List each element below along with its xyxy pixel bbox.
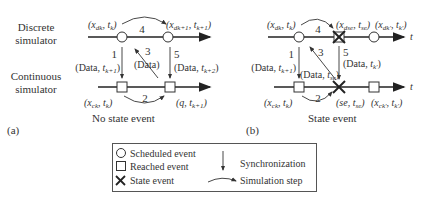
step-1-number: 1 — [112, 48, 118, 60]
step-1-label: (Data, tk+1) — [75, 62, 120, 75]
reached-event-icon — [117, 162, 126, 171]
step-4-number: 4 — [315, 23, 321, 35]
state-event-top-icon — [333, 31, 345, 43]
scheduled-event-icon — [117, 149, 126, 158]
step-3-label: (Data) — [134, 59, 160, 71]
scheduled-event-icon — [369, 32, 379, 42]
legend-sync-label: Synchronization — [240, 158, 306, 169]
legend-scheduled-label: Scheduled event — [130, 148, 196, 159]
state-label-xck: (xck, tk) — [264, 97, 293, 110]
cosimulation-diagram: Discrete simulator Continuous simulator … — [0, 0, 431, 203]
panel-b-caption: State event — [308, 112, 357, 124]
step-3-number: 3 — [145, 45, 151, 57]
state-label-xdse: (xdse, tse) — [336, 19, 371, 32]
legend: Scheduled event Reached event State even… — [113, 144, 317, 192]
step-5-label: (Data, tk') — [343, 58, 381, 71]
state-label-xdk: (xdk, tk) — [88, 19, 117, 32]
step-1-number: 1 — [289, 48, 295, 60]
panel-a-tag: (a) — [7, 124, 20, 137]
step-5-number: 5 — [174, 48, 180, 60]
continuous-label-line2: simulator — [15, 83, 57, 95]
state-label-xdk-prime: (xdk', tk') — [375, 19, 407, 32]
reached-event-icon — [294, 82, 304, 92]
step-3-number: 3 — [318, 46, 324, 58]
reached-event-icon — [369, 82, 379, 92]
state-label-xdk: (xdk, tk) — [267, 19, 296, 32]
scheduled-event-icon — [163, 32, 173, 42]
panel-b-tag: (b) — [246, 124, 259, 137]
panel-a: Discrete simulator Continuous simulator … — [7, 17, 219, 137]
step-3-label: (Data, tse) — [300, 69, 339, 82]
state-label-xck: (xck, tk) — [84, 97, 113, 110]
legend-reached-label: Reached event — [130, 161, 189, 172]
scheduled-event-icon — [117, 32, 127, 42]
step-2-number: 2 — [142, 92, 148, 104]
continuous-label-line1: Continuous — [11, 70, 62, 82]
state-label-xdk1: (xdk+1, tk+1) — [166, 19, 212, 32]
legend-state-label: State event — [130, 175, 174, 186]
scheduled-event-icon — [294, 32, 304, 42]
axis-t-top: t — [410, 31, 413, 42]
step-2-number: 2 — [315, 92, 321, 104]
reached-event-icon — [117, 82, 127, 92]
axis-t-bottom: t — [410, 81, 413, 92]
state-label-xck-prime: (xck', tk') — [371, 97, 403, 110]
discrete-label-line2: simulator — [15, 34, 57, 46]
reached-event-icon — [165, 82, 175, 92]
step-4-number: 4 — [139, 23, 145, 35]
panel-b: t t (xdk, tk) (xdse, tse) (xdk', tk') (x… — [246, 19, 413, 137]
discrete-label-line1: Discrete — [18, 21, 55, 33]
state-label-se: (se, tse) — [336, 97, 365, 110]
legend-step-label: Simulation step — [240, 175, 303, 186]
panel-a-caption: No state event — [92, 112, 155, 124]
state-label-q: (q, tk+1) — [176, 97, 207, 110]
step-5-label: (Data, tk+2) — [174, 62, 219, 75]
step-1-label: (Data, tk+1) — [251, 62, 296, 75]
step-5-number: 5 — [343, 46, 349, 58]
